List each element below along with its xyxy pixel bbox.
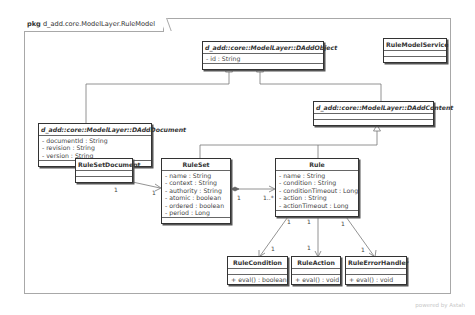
mult-err-src: 1 [341, 220, 345, 227]
mult-doc-src: 1 [114, 186, 118, 193]
class-rulesetdocument[interactable]: RuleSetDocument [75, 158, 133, 183]
mult-action-src: 1 [307, 218, 311, 225]
mult-action-tgt: 1 [307, 244, 311, 251]
class-rulemodelservice[interactable]: RuleModelService [383, 38, 447, 63]
mult-ruleset-tgt: 1..* [263, 194, 274, 201]
mult-doc-tgt: 1 [152, 189, 156, 196]
composition-rule-errorhandler [344, 214, 374, 256]
mult-ruleset-src: 1 [237, 194, 241, 201]
generalization-dadddocument [86, 71, 229, 123]
mult-err-tgt: 1 [361, 246, 365, 253]
mult-cond-tgt: 1 [271, 245, 275, 252]
class-rule[interactable]: Rule - name : String - condition : Strin… [275, 158, 359, 217]
class-ruleaction[interactable]: RuleAction + eval() : void [291, 256, 341, 285]
class-ruleset[interactable]: RuleSet - name : String - context : Stri… [161, 158, 231, 224]
class-ruleerrorhandler[interactable]: RuleErrorHandler + eval() : void [345, 256, 407, 285]
powered-by-footer: powered by Astah [415, 302, 465, 308]
mult-cond-src: 1 [287, 218, 291, 225]
composition-rule-condition [260, 214, 290, 256]
class-daddcontent[interactable]: d_add::core::ModelLayer::DAddContent [313, 101, 434, 126]
generalization-ruleset [200, 130, 377, 158]
class-daddobject[interactable]: d_add::core::ModelLayer::DAddObject - id… [202, 41, 324, 70]
class-rulecondition[interactable]: RuleCondition + eval() : boolean [227, 256, 288, 285]
